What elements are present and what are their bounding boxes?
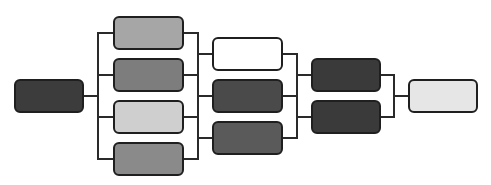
node-level2-b — [212, 79, 283, 113]
connector — [184, 74, 198, 76]
connector — [283, 137, 297, 139]
connector — [197, 95, 212, 97]
connector — [296, 53, 298, 139]
connector — [97, 74, 113, 76]
connector — [393, 95, 408, 97]
node-level1-c — [113, 100, 184, 134]
node-level2-a — [212, 37, 283, 71]
connector — [283, 53, 297, 55]
connector — [97, 158, 113, 160]
connector — [184, 158, 198, 160]
connector — [97, 32, 99, 160]
connector — [197, 53, 212, 55]
connector — [97, 116, 113, 118]
node-final — [408, 79, 478, 113]
node-level3-b — [311, 100, 381, 134]
connector — [184, 116, 198, 118]
connector — [83, 95, 98, 97]
tree-diagram — [0, 0, 491, 185]
node-level1-b — [113, 58, 184, 92]
node-level1-a — [113, 16, 184, 50]
connector — [184, 32, 198, 34]
connector — [283, 95, 297, 97]
node-level1-d — [113, 142, 184, 176]
connector — [197, 137, 212, 139]
connector — [296, 116, 311, 118]
node-level2-c — [212, 121, 283, 155]
connector — [296, 74, 311, 76]
node-root — [14, 79, 84, 113]
connector — [97, 32, 113, 34]
node-level3-a — [311, 58, 381, 92]
